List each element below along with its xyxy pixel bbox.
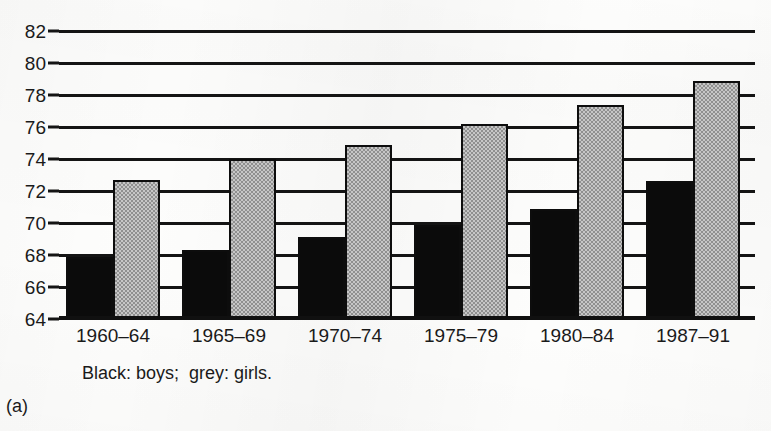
y-tick-mark <box>48 94 59 97</box>
y-tick-label: 76 <box>0 118 46 137</box>
y-tick-mark <box>48 62 59 65</box>
x-axis-baseline <box>59 316 755 320</box>
y-tick-label: 66 <box>0 278 46 297</box>
bar-boys-1965-69 <box>182 250 229 319</box>
y-tick-mark <box>48 190 59 193</box>
x-tick-label: 1975–79 <box>424 326 498 345</box>
bar-girls-1970-74 <box>345 145 392 319</box>
bar-group <box>59 31 755 319</box>
x-axis-labels: 1960–641965–691970–741975–791980–841987–… <box>59 326 755 356</box>
x-tick-label: 1965–69 <box>192 326 266 345</box>
y-tick-label: 72 <box>0 182 46 201</box>
y-tick-label: 80 <box>0 54 46 73</box>
bar-boys-1960-64 <box>66 257 113 319</box>
panel-label: (a) <box>6 396 28 417</box>
x-tick-label: 1980–84 <box>540 326 614 345</box>
bar-boys-1975-79 <box>414 225 461 319</box>
y-tick-mark <box>48 126 59 129</box>
x-tick-label: 1970–74 <box>308 326 382 345</box>
y-tick-mark <box>48 158 59 161</box>
y-tick-label: 64 <box>0 310 46 329</box>
x-tick-label: 1987–91 <box>656 326 730 345</box>
bar-boys-1980-84 <box>530 209 577 319</box>
y-tick-mark <box>48 254 59 257</box>
bar-boys-1987-91 <box>646 181 693 319</box>
x-tick-label: 1960–64 <box>76 326 150 345</box>
y-tick-mark <box>48 30 59 33</box>
bar-girls-1965-69 <box>229 159 276 319</box>
y-tick-label: 70 <box>0 214 46 233</box>
bar-girls-1987-91 <box>693 81 740 319</box>
y-tick-label: 78 <box>0 86 46 105</box>
bar-girls-1980-84 <box>577 105 624 319</box>
figure-panel-a: 82807876747270686664 1960–641965–691970–… <box>0 0 771 431</box>
legend-note: Black: boys; grey: girls. <box>82 363 272 384</box>
plot-area <box>59 31 755 319</box>
y-tick-mark <box>48 286 59 289</box>
y-tick-mark <box>48 318 59 321</box>
y-tick-label: 68 <box>0 246 46 265</box>
bar-boys-1970-74 <box>298 237 345 319</box>
bar-girls-1960-64 <box>113 180 160 319</box>
y-axis: 82807876747270686664 <box>0 0 58 431</box>
bar-girls-1975-79 <box>461 124 508 319</box>
y-tick-mark <box>48 222 59 225</box>
y-tick-label: 74 <box>0 150 46 169</box>
y-tick-label: 82 <box>0 22 46 41</box>
